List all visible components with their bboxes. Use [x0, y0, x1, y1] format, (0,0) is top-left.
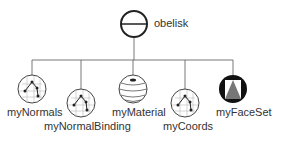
coordinates-icon — [171, 89, 199, 117]
node-label: myNormalBinding — [44, 120, 131, 132]
node-label: myCoords — [163, 120, 213, 132]
node-label: myMaterial — [112, 106, 166, 118]
scene-graph-diagram — [0, 0, 281, 148]
node-label-root: obelisk — [154, 17, 188, 29]
node-label: myFaceSet — [216, 106, 272, 118]
normal-binding-icon — [67, 89, 95, 117]
separator-icon — [121, 11, 147, 37]
material-icon — [119, 75, 147, 103]
face-set-icon — [219, 75, 247, 103]
normals-icon — [18, 75, 46, 103]
node-label: myNormals — [7, 106, 63, 118]
